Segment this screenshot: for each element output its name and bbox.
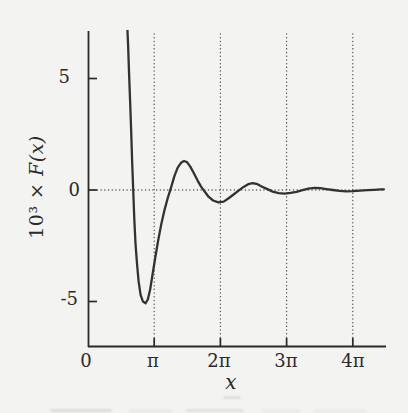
x-tick-label-4pi: 4π <box>325 351 381 371</box>
x-tick-label-3pi: 3π <box>258 351 314 371</box>
x-tick-label-pi: π <box>125 351 181 371</box>
scan-smudge <box>128 410 172 412</box>
scan-smudge <box>50 409 112 412</box>
function-curve <box>127 27 384 303</box>
y-axis-title-space <box>25 176 47 183</box>
x-tick-label-2pi: 2π <box>191 351 247 371</box>
y-tick-label-minus5: -5 <box>28 289 78 309</box>
scan-smudge <box>223 396 241 399</box>
y-axis-title-scale: 10³ × <box>25 183 47 239</box>
y-axis-title: 10³ × F(x) <box>27 135 46 239</box>
scan-smudge <box>262 410 300 412</box>
scan-smudge <box>314 410 366 412</box>
scanned-plot-figure: 5 0 -5 0 π 2π 3π 4π x 10³ × F(x) <box>0 0 408 413</box>
y-tick-label-5: 5 <box>20 67 70 87</box>
x-tick-label-0: 0 <box>58 351 114 371</box>
x-axis-title: x <box>206 372 256 392</box>
scan-smudge <box>186 409 244 412</box>
y-axis-title-function: F(x) <box>25 135 47 176</box>
